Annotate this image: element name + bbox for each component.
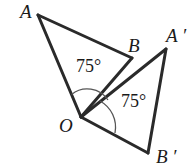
label-B: B <box>128 35 140 56</box>
angle-label-AOB: 75° <box>76 56 101 76</box>
segment-OB-prime <box>81 117 148 153</box>
angle-label-BOB-prime: 75° <box>121 91 146 111</box>
label-O: O <box>59 115 73 136</box>
rotation-diagram: A B O A ′ B ′ 75° 75° <box>0 0 196 166</box>
label-B-prime: B ′ <box>156 146 177 166</box>
label-A-prime: A ′ <box>164 25 187 46</box>
segment-A-prime-B-prime <box>148 49 166 153</box>
label-A: A <box>18 1 32 22</box>
